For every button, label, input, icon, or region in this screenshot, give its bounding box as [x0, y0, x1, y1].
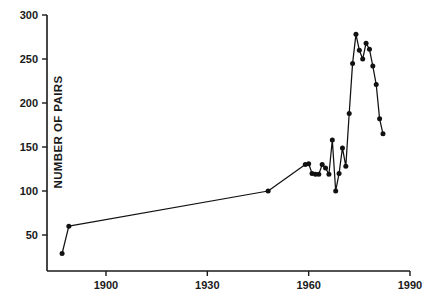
data-point: [347, 111, 352, 116]
data-point: [367, 47, 372, 52]
y-tick-label-250: 250: [20, 53, 38, 65]
data-point: [340, 145, 345, 150]
data-point: [377, 116, 382, 121]
data-point: [323, 166, 328, 171]
data-point: [343, 164, 348, 169]
data-point: [306, 161, 311, 166]
data-point: [350, 61, 355, 66]
data-point: [330, 137, 335, 142]
data-point: [316, 172, 321, 177]
y-tick-label-100: 100: [20, 185, 38, 197]
x-tick-label-1930: 1930: [195, 279, 219, 291]
y-tick-label-150: 150: [20, 141, 38, 153]
y-axis-group: 50100150200250300: [20, 9, 47, 271]
y-axis-tick-labels: 50100150200250300: [20, 9, 38, 241]
y-axis-label: NUMBER OF PAIRS: [52, 75, 64, 188]
y-tick-label-300: 300: [20, 9, 38, 21]
data-point: [357, 48, 362, 53]
x-tick-label-1960: 1960: [296, 279, 320, 291]
data-point: [353, 32, 358, 37]
x-tick-label-1990: 1990: [398, 279, 422, 291]
y-tick-label-200: 200: [20, 97, 38, 109]
x-axis-tick-labels: 1900193019601990: [94, 279, 422, 291]
data-series-markers: [60, 32, 386, 256]
line-chart: 50100150200250300 1900193019601990 NUMBE…: [0, 0, 424, 298]
data-point: [60, 251, 65, 256]
data-point: [374, 82, 379, 87]
data-point: [333, 189, 338, 194]
data-point: [360, 57, 365, 62]
x-axis-group: 1900193019601990: [47, 271, 422, 291]
data-series-line: [62, 34, 383, 253]
y-tick-label-50: 50: [26, 229, 38, 241]
data-point: [380, 131, 385, 136]
data-point: [66, 224, 71, 229]
x-tick-label-1900: 1900: [94, 279, 118, 291]
data-point: [364, 41, 369, 46]
data-point: [326, 172, 331, 177]
chart-container: 50100150200250300 1900193019601990 NUMBE…: [0, 0, 424, 298]
data-point: [266, 189, 271, 194]
data-point: [337, 171, 342, 176]
data-point: [370, 64, 375, 69]
